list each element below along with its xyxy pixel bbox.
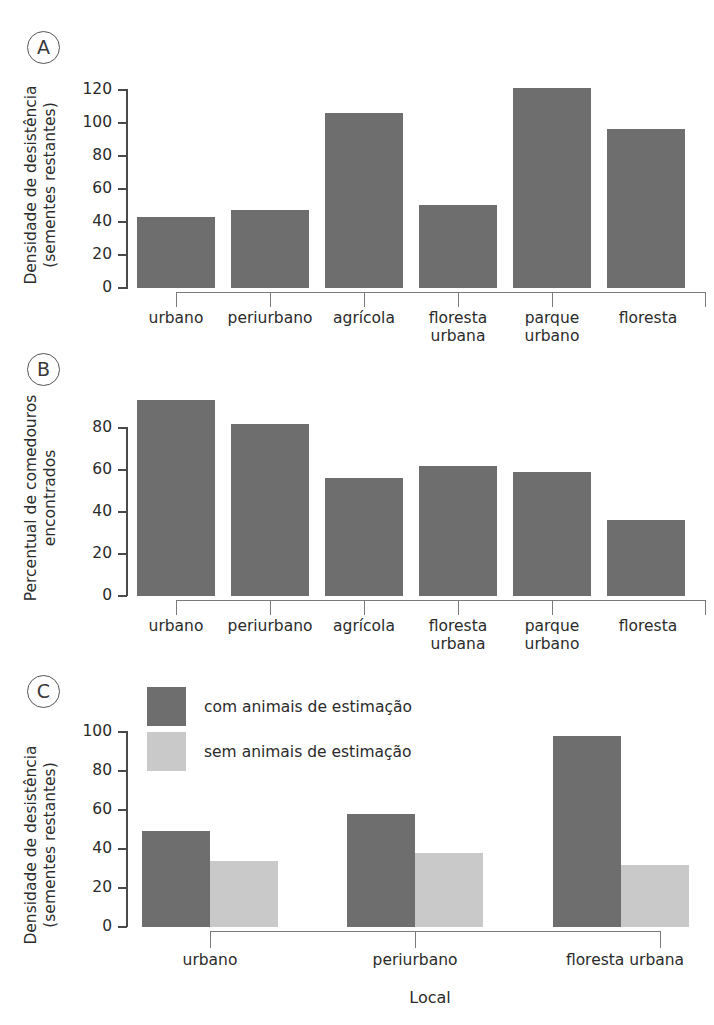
- panel-b-category-bracket: [0, 600, 714, 616]
- panel-a-bar-urbano: [137, 217, 215, 288]
- panel-b-category-label-floresta: floresta: [619, 618, 677, 636]
- panel-a-category-label-floresta: floresta: [619, 310, 677, 328]
- panel-c-bar-floresta-urbana-com: [553, 736, 621, 927]
- panel-b-category-label-agricola-line1: agrícola: [333, 617, 395, 635]
- panel-b-category-label-floresta-urbana: floresta urbana: [429, 618, 487, 654]
- panel-c-bar-periurbano-com: [347, 814, 415, 927]
- panel-c-plot-area: com animais de estimação sem animais de …: [0, 660, 714, 1025]
- panel-b-category-label-floresta-line1: floresta: [619, 617, 677, 635]
- panel-b-bar-parque-urbano: [513, 472, 591, 596]
- panel-c-bar-floresta-urbana-sem: [621, 865, 689, 927]
- panel-b-bar-periurbano: [231, 424, 309, 596]
- panel-a-category-label-periurbano-line1: periurbano: [228, 309, 313, 327]
- panel-a-category-label-agricola-line1: agrícola: [333, 309, 395, 327]
- panel-c-x-axis-label: Local: [409, 988, 450, 1007]
- panel-b-category-label-periurbano: periurbano: [228, 618, 313, 636]
- panel-b-category-label-agricola: agrícola: [333, 618, 395, 636]
- panel-c-category-label-urbano: urbano: [183, 952, 238, 970]
- panel-c-bar-periurbano-sem: [415, 853, 483, 927]
- panel-a-bar-periurbano: [231, 210, 309, 288]
- panel-a-bar-floresta-urbana: [419, 205, 497, 288]
- panel-b-bar-urbano: [137, 400, 215, 596]
- figure-panels: A Densidade de desistência (sementes res…: [0, 0, 714, 1025]
- panel-a-category-label-urbano-line1: urbano: [149, 309, 204, 327]
- panel-b: B Percentual de comedouros encontrados 8…: [0, 340, 714, 660]
- panel-c-bar-urbano-com: [142, 831, 210, 927]
- panel-b-bar-agricola: [325, 478, 403, 596]
- panel-b-category-label-parque-urbano-line2: urbano: [525, 636, 580, 654]
- panel-b-plot-area: 80 60 40 20 0: [0, 340, 714, 650]
- panel-c-category-label-floresta-urbana: floresta urbana: [566, 952, 684, 970]
- panel-b-category-label-parque-urbano-line1: parque: [525, 617, 580, 635]
- panel-a-bar-agricola: [325, 113, 403, 288]
- panel-c-category-label-floresta-urbana-text: floresta urbana: [566, 951, 684, 969]
- panel-a-category-label-periurbano: periurbano: [228, 310, 313, 328]
- panel-c: C Densidade de desistência (sementes res…: [0, 660, 714, 1025]
- panel-a-plot-area: 120 100 80 60 40 20 0: [0, 0, 714, 300]
- panel-b-category-label-periurbano-line1: periurbano: [228, 617, 313, 635]
- panel-b-category-label-urbano-line1: urbano: [149, 617, 204, 635]
- panel-b-bar-floresta: [607, 520, 685, 596]
- panel-c-category-bracket: [0, 931, 714, 949]
- panel-a: A Densidade de desistência (sementes res…: [0, 0, 714, 340]
- panel-a-bar-floresta: [607, 129, 685, 288]
- panel-c-category-label-periurbano-text: periurbano: [373, 951, 458, 969]
- panel-a-bar-parque-urbano: [513, 88, 591, 288]
- panel-b-category-label-floresta-urbana-line2: urbana: [429, 636, 487, 654]
- panel-a-category-label-parque-urbano-line1: parque: [525, 309, 580, 327]
- panel-c-category-label-urbano-text: urbano: [183, 951, 238, 969]
- panel-a-category-bracket: [0, 292, 714, 308]
- panel-c-category-label-periurbano: periurbano: [373, 952, 458, 970]
- panel-b-category-label-urbano: urbano: [149, 618, 204, 636]
- panel-a-category-label-floresta-urbana-line1: floresta: [429, 309, 487, 327]
- panel-b-bar-floresta-urbana: [419, 466, 497, 596]
- panel-b-category-label-floresta-urbana-line1: floresta: [429, 617, 487, 635]
- panel-a-category-label-urbano: urbano: [149, 310, 204, 328]
- panel-b-category-label-parque-urbano: parque urbano: [525, 618, 580, 654]
- panel-a-category-label-agricola: agrícola: [333, 310, 395, 328]
- panel-a-category-label-floresta-line1: floresta: [619, 309, 677, 327]
- panel-c-bar-urbano-sem: [210, 861, 278, 927]
